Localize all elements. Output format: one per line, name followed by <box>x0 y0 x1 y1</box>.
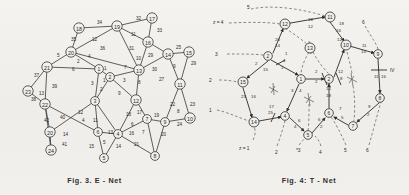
e-net-nodes: 17 18 19 16 20 14 15 21 1 13 2 11 23 22 … <box>23 13 195 163</box>
e-net-node[interactable]: 24 <box>46 145 56 155</box>
e-net-edge-labels: 343233 113512 363129 102529 92730 542 63… <box>31 16 197 149</box>
svg-text:6: 6 <box>131 122 134 127</box>
svg-text:7: 7 <box>146 116 149 122</box>
t-net-node[interactable]: 4 <box>281 112 290 121</box>
svg-text:15: 15 <box>186 50 192 56</box>
svg-text:20: 20 <box>47 130 53 136</box>
svg-text:12: 12 <box>338 69 343 74</box>
e-net-node[interactable]: 6 <box>94 128 103 137</box>
svg-text:20: 20 <box>68 50 74 56</box>
svg-text:9: 9 <box>173 64 176 69</box>
t-net-node[interactable]: 7 <box>349 122 358 131</box>
svg-text:1: 1 <box>103 78 106 83</box>
svg-text:11: 11 <box>374 74 379 79</box>
svg-text:2: 2 <box>77 59 80 64</box>
e-net-node[interactable]: 15 <box>184 47 194 57</box>
svg-text:14: 14 <box>275 43 280 48</box>
e-net-node[interactable]: 18 <box>74 23 84 33</box>
e-net-node[interactable]: 22 <box>40 99 50 109</box>
svg-text:8: 8 <box>340 76 343 81</box>
svg-text:IV: IV <box>390 68 395 73</box>
t-net-node[interactable]: 8 <box>376 94 385 103</box>
e-net-node[interactable]: 19 <box>112 21 122 31</box>
e-net-node[interactable]: 16 <box>143 37 153 47</box>
t-net-node[interactable]: 6 <box>325 109 334 118</box>
e-net-node[interactable]: 5 <box>100 154 109 163</box>
figure-t-net: 11 12 13 10 2 9 15 1 2 8 14 4 6 7 5 1812… <box>205 0 409 195</box>
e-net-node[interactable]: 2 <box>106 73 115 82</box>
svg-text:15: 15 <box>89 144 95 149</box>
t-net-node[interactable]: 14 <box>249 117 259 127</box>
svg-text:14: 14 <box>116 144 122 149</box>
t-net-node[interactable]: 15 <box>238 77 248 87</box>
svg-text:19: 19 <box>154 113 160 118</box>
t-net-node[interactable]: 2 <box>264 52 273 61</box>
figure-caption-e-net: Fig. 3. E - Net <box>0 176 197 185</box>
t-net-node[interactable]: 11 <box>325 12 335 22</box>
svg-text:12: 12 <box>133 98 139 104</box>
svg-text:8: 8 <box>379 95 382 101</box>
svg-text:6: 6 <box>318 117 321 122</box>
svg-text:9: 9 <box>118 91 121 96</box>
svg-text:6: 6 <box>328 110 331 116</box>
svg-text:5: 5 <box>341 115 344 120</box>
t-net-node[interactable]: 5 <box>304 131 313 140</box>
svg-text:17: 17 <box>269 104 274 109</box>
e-net-node[interactable]: 1 <box>95 65 104 74</box>
svg-text:21: 21 <box>134 142 140 147</box>
e-net-node[interactable]: 13 <box>134 65 144 75</box>
svg-text:6: 6 <box>97 129 100 135</box>
e-net-node[interactable]: 21 <box>42 62 52 72</box>
svg-text:6: 6 <box>298 118 301 123</box>
e-net-node[interactable]: 7 <box>143 115 152 124</box>
svg-text:16: 16 <box>381 74 386 79</box>
e-net-node[interactable]: 20 <box>66 47 76 57</box>
t-net-node[interactable]: 13 <box>305 43 315 53</box>
svg-text:4: 4 <box>82 118 85 123</box>
t-net-node[interactable]: 10 <box>341 40 351 50</box>
svg-text:29: 29 <box>148 53 154 58</box>
e-net-graph: 17 18 19 16 20 14 15 21 1 13 2 11 23 22 … <box>0 0 205 175</box>
svg-text:2: 2 <box>267 53 270 59</box>
svg-text:4: 4 <box>319 150 322 155</box>
e-net-node[interactable]: 12 <box>131 95 141 105</box>
svg-text:27: 27 <box>159 77 165 82</box>
svg-text:33: 33 <box>157 28 163 33</box>
e-net-node[interactable]: 23 <box>23 86 33 96</box>
svg-text:19: 19 <box>114 24 120 30</box>
svg-text:4: 4 <box>284 113 287 119</box>
svg-text:39: 39 <box>52 84 58 89</box>
t-net-node[interactable]: 12 <box>280 19 290 29</box>
svg-text:3: 3 <box>291 88 294 93</box>
e-net-node[interactable]: 8 <box>151 152 160 161</box>
e-net-node[interactable]: 17 <box>147 13 157 23</box>
svg-text:1: 1 <box>104 66 107 71</box>
svg-text:12: 12 <box>92 37 98 42</box>
e-net-node[interactable]: 11 <box>175 79 185 89</box>
e-net-node[interactable]: 10 <box>185 113 195 123</box>
svg-text:14: 14 <box>251 119 257 125</box>
svg-text:7: 7 <box>352 123 355 129</box>
svg-text:5: 5 <box>344 148 347 153</box>
svg-text:z = 1: z = 1 <box>239 146 250 151</box>
t-net-node[interactable]: 9 <box>374 50 383 59</box>
t-net-nodes: 11 12 13 10 2 9 15 1 2 8 14 4 6 7 5 <box>238 12 384 139</box>
e-net-node[interactable]: 14 <box>163 49 173 59</box>
svg-text:6: 6 <box>72 67 75 72</box>
svg-text:1: 1 <box>281 65 284 70</box>
t-net-node[interactable]: 1 <box>297 75 306 84</box>
svg-text:2: 2 <box>275 150 278 155</box>
t-net-node[interactable]: 2 <box>325 75 334 84</box>
svg-text:1: 1 <box>285 51 288 56</box>
e-net-node[interactable]: 20 <box>45 127 55 137</box>
svg-text:16: 16 <box>129 131 135 136</box>
e-net-node[interactable]: 4 <box>114 130 123 139</box>
svg-text:5: 5 <box>307 132 310 138</box>
e-net-node[interactable]: 9 <box>161 118 170 127</box>
svg-text:12: 12 <box>282 21 288 27</box>
svg-text:18: 18 <box>326 93 331 98</box>
e-net-node[interactable]: 3 <box>91 97 100 106</box>
svg-text:18: 18 <box>339 21 344 26</box>
svg-text:38: 38 <box>31 97 37 102</box>
svg-text:35: 35 <box>71 37 77 42</box>
